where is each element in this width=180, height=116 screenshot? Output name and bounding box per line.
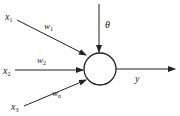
input-label-2: x2 [2,65,10,77]
input-label-3: x3 [10,101,18,113]
neuron-diagram: x1 x2 x3 w1 w2 wn θ y [0,0,180,116]
weight-label-1: w1 [44,21,53,32]
threshold-label: θ [105,19,110,30]
weight-label-n: wn [52,88,61,99]
neuron-svg: x1 x2 x3 w1 w2 wn θ y [0,0,180,116]
output-label: y [134,73,140,84]
weight-label-2: w2 [37,55,46,66]
input-label-1: x1 [4,11,12,23]
neuron-node [84,53,116,85]
